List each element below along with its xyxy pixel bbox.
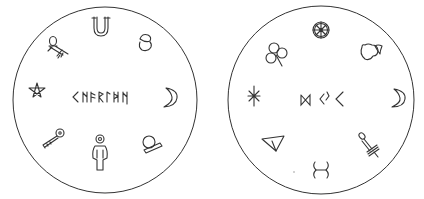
apple-icon	[361, 44, 382, 60]
rune-figure-icon	[314, 162, 329, 178]
right-disc-graphic	[212, 0, 424, 199]
right-disc	[212, 0, 424, 199]
center-runes	[73, 92, 127, 104]
dagger-icon	[358, 132, 379, 157]
crescent-moon-icon	[164, 88, 177, 107]
clover-icon	[266, 43, 287, 66]
figure-icon	[93, 135, 108, 170]
left-disc	[0, 0, 212, 199]
ankh-icon	[48, 37, 68, 59]
crystal-ball-icon	[143, 136, 162, 153]
pentagram-icon	[29, 83, 45, 97]
center-runes	[301, 92, 343, 106]
left-disc-graphic	[0, 0, 212, 199]
asterisk-star-icon	[248, 86, 260, 106]
horseshoe-icon	[92, 17, 110, 36]
key-icon	[43, 129, 64, 148]
acorn-icon	[139, 35, 151, 51]
speck	[293, 171, 295, 173]
crescent-moon-icon	[392, 89, 405, 107]
triangle-icon	[262, 136, 284, 151]
wheel-icon	[313, 22, 329, 38]
